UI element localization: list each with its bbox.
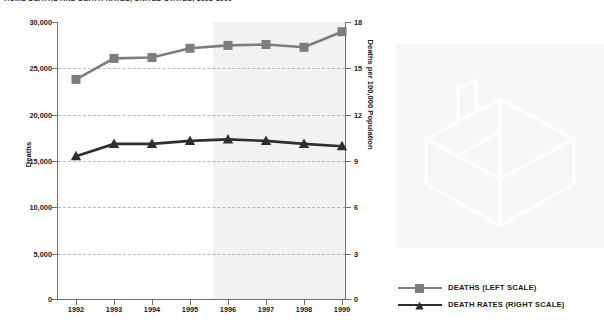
house-outline-icon xyxy=(396,44,604,248)
xlabel-1997: 1997 xyxy=(246,305,286,314)
square-marker xyxy=(415,284,424,293)
ylabel-left-1: 5,000 xyxy=(4,250,52,259)
series-layer xyxy=(57,22,346,300)
legend-item-death-rates[interactable]: DEATH RATES (RIGHT SCALE) xyxy=(398,296,604,313)
ylabel-left-4: 20,000 xyxy=(4,111,52,120)
xlabel-1994: 1994 xyxy=(132,305,172,314)
chart-legend: DEATHS (LEFT SCALE) DEATH RATES (RIGHT S… xyxy=(398,279,604,313)
tick-right-3 xyxy=(346,254,351,255)
y-axis-left-title: Deaths xyxy=(24,125,33,185)
legend-item-deaths[interactable]: DEATHS (LEFT SCALE) xyxy=(398,279,604,296)
ylabel-left-0: 0 xyxy=(4,295,52,304)
legend-label-death-rates: DEATH RATES (RIGHT SCALE) xyxy=(442,300,565,309)
triangle-marker xyxy=(415,301,424,310)
legend-swatch-deaths xyxy=(398,282,442,294)
chart-plot-area xyxy=(57,22,346,300)
xlabel-1998: 1998 xyxy=(284,305,324,314)
tick-right-6 xyxy=(346,207,351,208)
xlabel-1995: 1995 xyxy=(170,305,210,314)
watermark-panel xyxy=(396,44,604,248)
page-title: HOME DEATHS AND DEATH RATES, UNITED STAT… xyxy=(4,0,424,6)
tick-right-18 xyxy=(346,22,351,23)
legend-swatch-death-rates xyxy=(398,299,442,311)
tick-right-15 xyxy=(346,68,351,69)
xlabel-1996: 1996 xyxy=(208,305,248,314)
legend-label-deaths: DEATHS (LEFT SCALE) xyxy=(442,283,536,292)
xlabel-1993: 1993 xyxy=(94,305,134,314)
ylabel-left-5: 25,000 xyxy=(4,64,52,73)
ylabel-right-3: 9 xyxy=(354,157,374,166)
xlabel-1999: 1999 xyxy=(322,305,362,314)
rates-markers xyxy=(71,134,347,160)
tick-right-12 xyxy=(346,115,351,116)
xlabel-1992: 1992 xyxy=(56,305,96,314)
ylabel-left-2: 10,000 xyxy=(4,203,52,212)
ylabel-right-2: 6 xyxy=(354,203,374,212)
y-axis-right-title: Deaths per 100,000 Population xyxy=(366,35,375,155)
ylabel-right-1: 3 xyxy=(354,250,374,259)
ylabel-right-0: 0 xyxy=(354,295,374,304)
tick-right-0 xyxy=(346,299,351,300)
deaths-markers xyxy=(72,27,347,84)
ylabel-right-6: 18 xyxy=(354,18,374,27)
ylabel-left-6: 30,000 xyxy=(4,18,52,27)
tick-right-9 xyxy=(346,161,351,162)
